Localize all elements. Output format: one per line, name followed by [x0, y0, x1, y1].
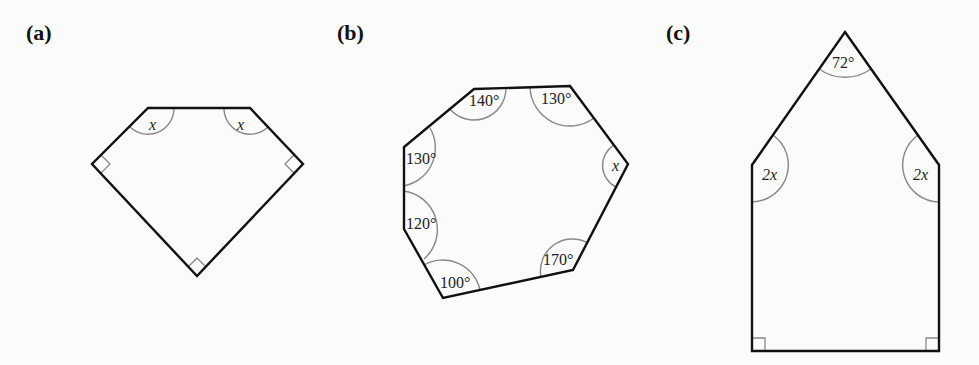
- angle-label: x: [611, 157, 619, 174]
- angle-label: 2x: [762, 166, 777, 183]
- angle-label: 72°: [832, 54, 854, 71]
- figure-b: 140°130°x130°120°170°100°: [404, 86, 628, 298]
- label-part-c: (c): [666, 20, 690, 46]
- angle-label: x: [148, 116, 156, 133]
- right-angle-marker: [285, 155, 294, 173]
- angle-label: 120°: [406, 215, 436, 232]
- angle-label: 130°: [541, 90, 571, 107]
- angle-label: 2x: [913, 166, 928, 183]
- right-angle-marker: [101, 155, 110, 173]
- label-part-a: (a): [26, 20, 52, 46]
- angle-label: 130°: [406, 150, 436, 167]
- right-angle-marker: [752, 338, 765, 351]
- polygon-outline: [404, 86, 628, 298]
- angle-label: 100°: [440, 274, 470, 291]
- angle-label: 140°: [469, 92, 499, 109]
- figure-a: xx: [92, 108, 303, 276]
- polygon-figures: xx140°130°x130°120°170°100°72°2x2x (a) (…: [0, 0, 979, 365]
- angle-label: x: [236, 116, 244, 133]
- polygon-outline: [752, 32, 939, 351]
- polygon-outline: [92, 108, 303, 276]
- right-angle-marker: [188, 258, 206, 267]
- right-angle-marker: [926, 338, 939, 351]
- diagram-canvas: xx140°130°x130°120°170°100°72°2x2x: [0, 0, 979, 365]
- figure-c: 72°2x2x: [752, 32, 939, 351]
- angle-label: 170°: [543, 251, 573, 268]
- label-part-b: (b): [337, 20, 364, 46]
